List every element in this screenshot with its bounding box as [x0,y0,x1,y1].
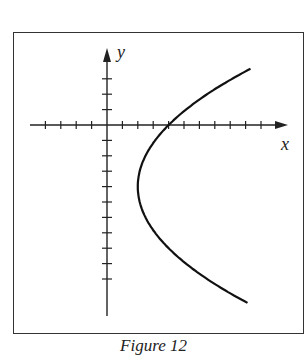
figure-frame [14,33,304,334]
x-axis-label: x [280,134,289,154]
y-axis-label: y [115,42,125,62]
figure-caption: Figure 12 [0,336,307,356]
